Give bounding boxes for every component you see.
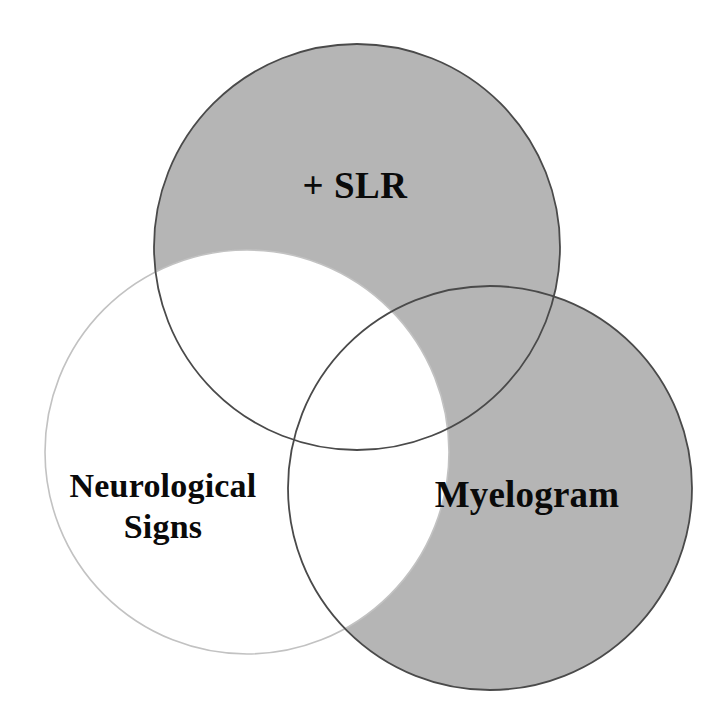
set-label-neurological-signs-line2: Signs: [124, 508, 203, 545]
set-label-slr: + SLR: [303, 165, 409, 206]
venn-diagram-figure: + SLR Myelogram Neurological Signs: [0, 0, 716, 719]
set-label-neurological-signs-line1: Neurological: [70, 467, 257, 504]
set-label-myelogram: Myelogram: [435, 474, 620, 515]
set-fill-neurological-signs: [45, 250, 449, 654]
venn-diagram-canvas: + SLR Myelogram Neurological Signs: [0, 0, 716, 719]
